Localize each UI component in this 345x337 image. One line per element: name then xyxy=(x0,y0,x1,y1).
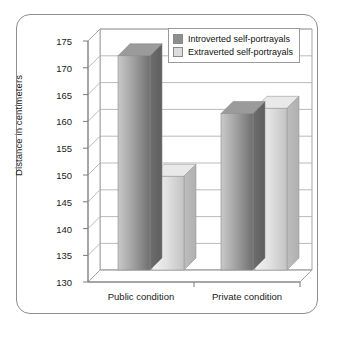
legend-label-introverted: Introverted self-portrayals xyxy=(188,33,290,45)
y-tick-130: 130 xyxy=(42,277,72,288)
legend-swatch-extraverted-icon xyxy=(173,47,183,57)
chart-figure: 175 170 165 160 155 150 145 140 135 130 … xyxy=(0,0,345,337)
y-tick-165: 165 xyxy=(42,89,72,100)
y-tick-145: 145 xyxy=(42,196,72,207)
y-tick-155: 155 xyxy=(42,143,72,154)
x-tick-private-condition: Private condition xyxy=(212,291,282,302)
y-tick-150: 150 xyxy=(42,170,72,181)
x-tick-public-condition: Public condition xyxy=(108,291,175,302)
y-tick-140: 140 xyxy=(42,223,72,234)
y-tick-160: 160 xyxy=(42,116,72,127)
y-tick-175: 175 xyxy=(42,36,72,47)
chart-legend: Introverted self-portrayals Extraverted … xyxy=(168,28,300,63)
y-tick-labels: 175 170 165 160 155 150 145 140 135 130 xyxy=(40,0,72,337)
legend-swatch-introverted-icon xyxy=(173,34,183,44)
y-tick-170: 170 xyxy=(42,62,72,73)
legend-item-extraverted: Extraverted self-portrayals xyxy=(173,46,293,58)
legend-item-introverted: Introverted self-portrayals xyxy=(173,33,293,45)
legend-label-extraverted: Extraverted self-portrayals xyxy=(188,46,293,58)
y-axis-title: Distance in centimeters xyxy=(13,36,24,216)
y-tick-135: 135 xyxy=(42,250,72,261)
